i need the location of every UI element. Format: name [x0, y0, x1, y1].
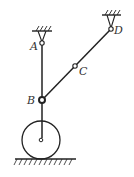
label-c: C: [79, 65, 88, 78]
wheel-center-pin: [39, 138, 43, 142]
pin-b: [39, 97, 45, 103]
pin-a: [40, 41, 44, 45]
pin-c: [73, 64, 77, 68]
label-b: B: [26, 94, 35, 107]
label-d: D: [113, 24, 123, 37]
rod-bd: [44, 30, 110, 98]
mechanism-diagram: A D C B: [0, 0, 134, 177]
pin-d: [109, 27, 113, 31]
ground: [14, 159, 76, 165]
label-a: A: [29, 40, 38, 53]
